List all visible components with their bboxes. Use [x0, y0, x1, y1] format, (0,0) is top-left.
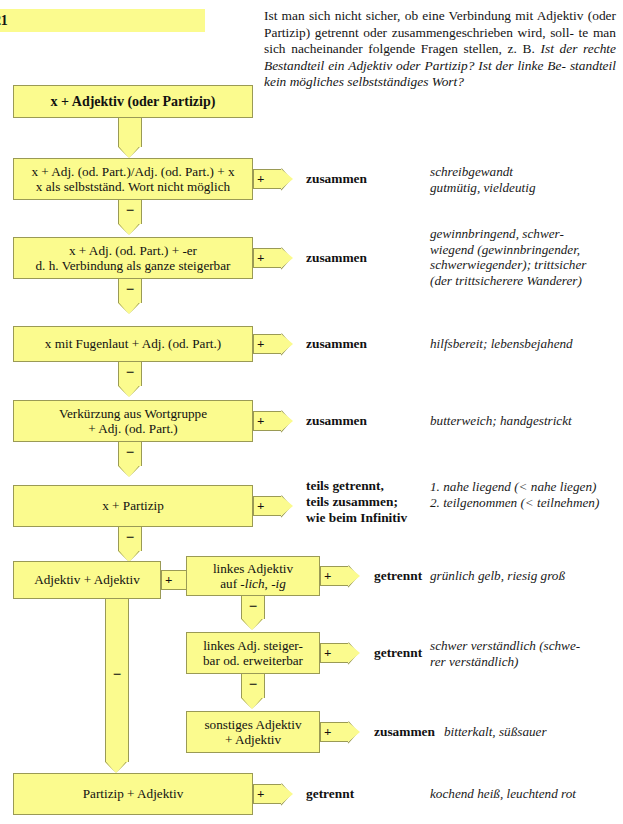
- flow-branch-node-2[interactable]: linkes Adj. steiger- bar od. erweiterbar: [186, 632, 320, 674]
- example-line: gewinnbringend, schwer-: [430, 226, 586, 242]
- plus-marker-branch-2[interactable]: +: [320, 643, 348, 663]
- arrow-head-icon: [118, 466, 140, 477]
- example-node-7: kochend heiß, leuchtend rot: [430, 786, 576, 802]
- example-node-1: schreibgewandt gutmütig, vieldeutig: [430, 164, 535, 195]
- branch-line2-suffix-ig: -ig: [271, 576, 286, 591]
- branch-line2-prefix: auf: [220, 576, 240, 591]
- flow-branch-node-1[interactable]: linkes Adjektiv auf -lich, -ig: [186, 556, 320, 596]
- flow-node-1-line-1: x + Adj. (od. Part.)/Adj. (od. Part.) + …: [31, 164, 234, 179]
- flow-node-3[interactable]: x mit Fugenlaut + Adj. (od. Part.): [13, 326, 253, 362]
- example-branch-2: schwer verständlich (schwe- rer verständ…: [430, 638, 580, 669]
- arrow-tip-line-top: [281, 247, 291, 258]
- flow-node-start-label: x + Adjektiv (oder Partizip): [51, 94, 216, 109]
- flow-node-2[interactable]: x + Adj. (od. Part.) + -er d. h. Verbind…: [13, 237, 253, 279]
- plus-sign: +: [257, 498, 264, 514]
- arrow-head-icon: [241, 619, 263, 630]
- flow-node-1-line-2: x als selbstständ. Wort nicht möglich: [36, 179, 230, 194]
- example-line: gutmütig, vieldeutig: [430, 180, 535, 196]
- minus-sign: −: [119, 530, 141, 545]
- flow-node-5[interactable]: x + Partizip: [13, 485, 253, 527]
- plus-sign: +: [257, 171, 264, 187]
- arrow-head-icon: [118, 147, 140, 158]
- arrow-node-5-to-node-6: −: [118, 527, 142, 551]
- verdict-node-5: teils getrennt, teils zusammen; wie beim…: [306, 478, 407, 526]
- flow-node-1[interactable]: x + Adj. (od. Part.)/Adj. (od. Part.) + …: [13, 158, 253, 200]
- arrow-tip-line-top: [348, 642, 358, 653]
- example-node-4: butterweich; handgestrickt: [430, 413, 572, 429]
- example-line: schwerwiegender); trittsicher: [430, 257, 586, 273]
- arrow-tip-line-top: [281, 333, 291, 344]
- plus-marker-branch-1[interactable]: +: [320, 566, 348, 586]
- arrow-head-icon: [118, 303, 140, 314]
- intro-line-3-italic: Ist der: [540, 41, 577, 56]
- arrow-tip-line-top: [281, 783, 291, 794]
- example-line: bitterkalt, süßsauer: [444, 724, 547, 740]
- arrow-node-4-to-node-5: −: [118, 442, 142, 466]
- verdict-branch-3: zusammen: [374, 724, 435, 740]
- verdict-line: wie beim Infinitiv: [306, 510, 407, 526]
- flow-branch-node-2-line-1: linkes Adj. steiger-: [203, 638, 303, 653]
- plus-sign: +: [257, 413, 264, 429]
- verdict-branch-1: getrennt: [374, 568, 422, 584]
- verdict-node-2: zusammen: [306, 250, 367, 266]
- flow-branch-node-1-line-1: linkes Adjektiv: [213, 561, 293, 576]
- minus-sign: −: [119, 445, 141, 460]
- arrow-tip-line-bottom: [281, 421, 291, 432]
- example-node-2: gewinnbringend, schwer- wiegend (gewinnb…: [430, 226, 586, 288]
- plus-sign: +: [165, 572, 172, 588]
- verdict-line: teils zusammen;: [306, 494, 407, 510]
- arrow-head-icon: [105, 762, 127, 773]
- flow-node-7[interactable]: Partizip + Adjektiv: [13, 773, 253, 815]
- arrow-branch-1-to-branch-2: −: [241, 596, 265, 619]
- flow-node-2-line-2: d. h. Verbindung als ganze steigerbar: [36, 258, 231, 273]
- verdict-line: teils getrennt,: [306, 478, 407, 494]
- plus-sign: +: [324, 645, 331, 661]
- plus-sign: +: [257, 786, 264, 802]
- arrow-node-1-to-node-2: −: [118, 200, 142, 224]
- plus-marker-node-3[interactable]: +: [253, 334, 281, 354]
- plus-marker-node-1[interactable]: +: [253, 169, 281, 189]
- plus-sign: +: [324, 568, 331, 584]
- flow-node-7-line-1: Partizip + Adjektiv: [83, 786, 183, 801]
- plus-marker-node-6[interactable]: +: [161, 570, 189, 590]
- arrow-tip-line-bottom: [348, 653, 358, 664]
- plus-marker-branch-3[interactable]: +: [320, 722, 348, 742]
- arrow-head-icon: [241, 698, 263, 709]
- flow-branch-node-3-line-2: + Adjektiv: [225, 732, 281, 747]
- example-branch-3: bitterkalt, süßsauer: [444, 724, 547, 740]
- verdict-branch-2: getrennt: [374, 645, 422, 661]
- plus-sign: +: [324, 724, 331, 740]
- example-branch-1: grünlich gelb, riesig groß: [430, 568, 565, 584]
- flow-node-6-line-1: Adjektiv + Adjektiv: [34, 572, 140, 587]
- arrow-tip-line-bottom: [281, 794, 291, 805]
- example-node-5: 1. nahe liegend (< nahe liegen) 2. teilg…: [430, 479, 599, 510]
- plus-marker-node-5[interactable]: +: [253, 496, 281, 516]
- example-line: 2. teilgenommen (< teilnehmen): [430, 495, 599, 511]
- arrow-tip-line-top: [281, 410, 291, 421]
- plus-marker-node-4[interactable]: +: [253, 411, 281, 431]
- arrow-head-icon: [118, 224, 140, 235]
- intro-paragraph: Ist man sich nicht sicher, ob eine Verbi…: [264, 8, 616, 91]
- flow-node-6[interactable]: Adjektiv + Adjektiv: [13, 561, 161, 599]
- arrow-tip-line-bottom: [281, 258, 291, 269]
- verdict-node-1: zusammen: [306, 171, 367, 187]
- arrow-tip-line-bottom: [281, 344, 291, 355]
- arrow-tip-line-top: [281, 495, 291, 506]
- arrow-tip-line-bottom: [281, 506, 291, 517]
- plus-sign: +: [257, 250, 264, 266]
- flow-branch-node-3[interactable]: sonstiges Adjektiv + Adjektiv: [186, 711, 320, 753]
- arrow-tip-line-top: [281, 168, 291, 179]
- flow-node-4[interactable]: Verkürzung aus Wortgruppe + Adj. (od. Pa…: [13, 400, 253, 442]
- verdict-node-3: zusammen: [306, 336, 367, 352]
- arrow-tip-line-top: [348, 565, 358, 576]
- minus-sign: −: [119, 203, 141, 218]
- example-node-3: hilfsbereit; lebensbejahend: [430, 336, 573, 352]
- arrow-node-3-to-node-4: −: [118, 362, 142, 386]
- plus-marker-node-7[interactable]: +: [253, 784, 281, 804]
- flow-node-start[interactable]: x + Adjektiv (oder Partizip): [13, 85, 253, 118]
- example-line: (der trittsicherere Wanderer): [430, 273, 586, 289]
- flow-branch-node-1-line-2: auf -lich, -ig: [220, 576, 286, 591]
- example-line: wiegend (gewinnbringender,: [430, 242, 586, 258]
- plus-marker-node-2[interactable]: +: [253, 248, 281, 268]
- page-number: 21: [0, 11, 34, 30]
